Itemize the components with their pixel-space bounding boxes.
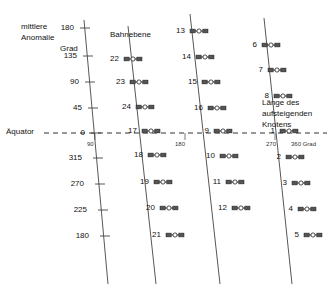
satellite-label-23: 23 xyxy=(110,77,125,86)
satellite-label-10: 10 xyxy=(200,151,215,160)
satellite-label-22: 22 xyxy=(104,54,119,63)
satellite-marker-10[interactable] xyxy=(220,154,238,158)
satellite-marker-14[interactable] xyxy=(196,55,214,59)
raan-label-line2: aufsteigenden xyxy=(262,109,312,118)
satellite-marker-3[interactable] xyxy=(292,181,310,185)
satellite-marker-18[interactable] xyxy=(148,153,166,157)
satellite-marker-4[interactable] xyxy=(298,207,316,211)
satellite-label-8: 8 xyxy=(257,91,269,100)
satellite-marker-2[interactable] xyxy=(286,155,304,159)
satellite-marker-12[interactable] xyxy=(232,206,250,210)
satellite-label-18: 18 xyxy=(128,150,143,159)
y-tick-label-225: 225 xyxy=(61,205,87,214)
satellite-marker-13[interactable] xyxy=(190,29,208,33)
satellite-label-24: 24 xyxy=(116,102,131,111)
x-tick-label-90: 90 xyxy=(87,141,94,148)
satellite-label-17: 17 xyxy=(122,126,137,135)
satellite-marker-19[interactable] xyxy=(154,180,172,184)
satellite-label-13: 13 xyxy=(170,26,185,35)
y-tick-label-90: 90 xyxy=(53,77,79,86)
satellite-label-1: 1 xyxy=(263,126,275,135)
satellite-marker-15[interactable] xyxy=(202,80,220,84)
equator-label: Äquator xyxy=(6,127,34,136)
y-axis-caption-line2: Anomalie xyxy=(21,33,54,42)
diagram-canvas xyxy=(0,0,333,284)
satellite-marker-22[interactable] xyxy=(124,57,142,61)
orbit-diagram: mittlere Anomalie Grad Äquator Bahnebene… xyxy=(0,0,333,284)
x-tick-label-270: 270 xyxy=(266,141,276,148)
satellite-marker-20[interactable] xyxy=(160,206,178,210)
y-tick-label-180-top: 180 xyxy=(48,23,74,32)
satellite-marker-5[interactable] xyxy=(304,233,322,237)
y-axis-caption-line1: mittlere xyxy=(21,22,47,31)
satellite-marker-16[interactable] xyxy=(208,106,226,110)
y-tick-label-0: 0 xyxy=(59,128,85,137)
satellite-label-14: 14 xyxy=(176,52,191,61)
x-tick-label-180: 180 xyxy=(175,141,185,148)
satellite-marker-1[interactable] xyxy=(280,129,298,133)
orbit-plane-line-b xyxy=(190,14,220,284)
y-tick-label-45: 45 xyxy=(56,103,82,112)
satellite-label-9: 9 xyxy=(194,126,209,135)
x-tick-label-360: 360 Grad xyxy=(291,141,316,148)
satellite-marker-11[interactable] xyxy=(226,180,244,184)
satellite-label-3: 3 xyxy=(275,178,287,187)
y-tick-label-270: 270 xyxy=(58,179,84,188)
x-axis-equator xyxy=(44,133,327,140)
satellite-label-20: 20 xyxy=(140,203,155,212)
satellite-label-6: 6 xyxy=(245,40,257,49)
satellite-label-2: 2 xyxy=(269,152,281,161)
satellite-marker-17[interactable] xyxy=(142,129,160,133)
satellite-label-19: 19 xyxy=(134,177,149,186)
satellite-label-11: 11 xyxy=(206,177,221,186)
orbit-plane-line-c xyxy=(264,18,292,284)
satellite-marker-6[interactable] xyxy=(262,43,280,47)
satellite-label-5: 5 xyxy=(287,230,299,239)
satellite-label-16: 16 xyxy=(188,103,203,112)
satellite-label-21: 21 xyxy=(146,230,161,239)
satellite-marker-7[interactable] xyxy=(268,68,286,72)
satellite-marker-9[interactable] xyxy=(214,129,232,133)
y-tick-label-180-bottom: 180 xyxy=(63,231,89,240)
y-tick-label-135: 135 xyxy=(51,51,77,60)
satellite-label-15: 15 xyxy=(182,77,197,86)
orbit-plane-label: Bahnebene xyxy=(110,30,151,39)
satellite-label-4: 4 xyxy=(281,204,293,213)
satellite-marker-23[interactable] xyxy=(130,80,148,84)
satellite-marker-21[interactable] xyxy=(166,233,184,237)
satellite-marker-24[interactable] xyxy=(136,105,154,109)
satellite-label-7: 7 xyxy=(251,65,263,74)
satellite-label-12: 12 xyxy=(212,203,227,212)
y-tick-label-315: 315 xyxy=(56,153,82,162)
